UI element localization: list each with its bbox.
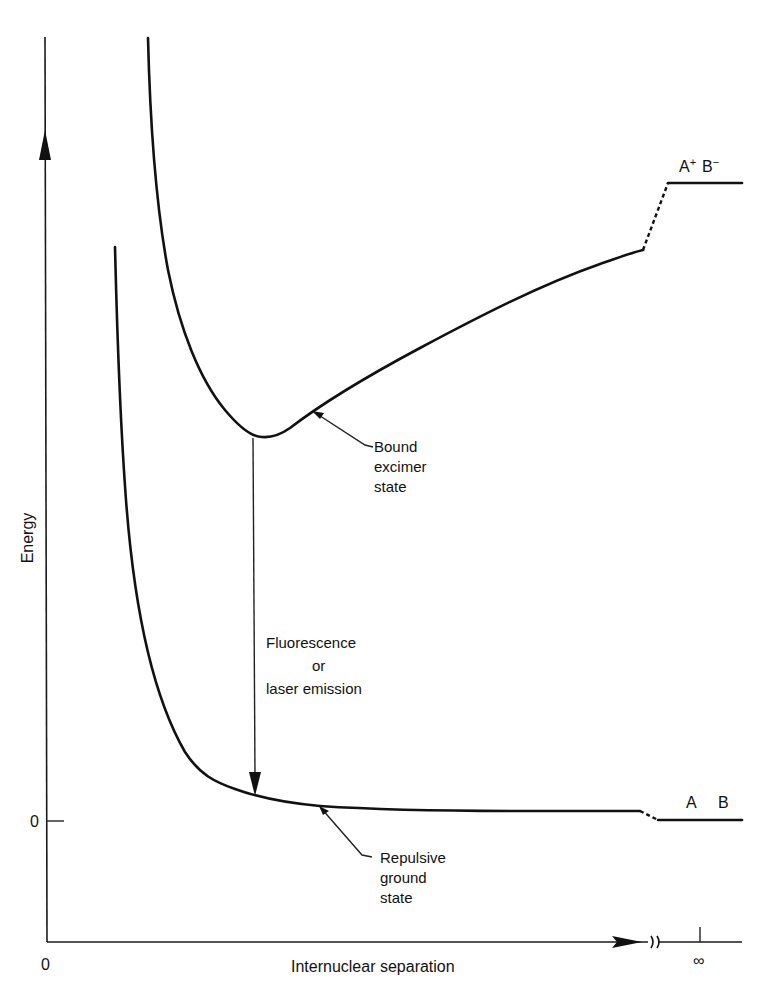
x-axis: 0 ∞ Internuclear separation	[41, 927, 742, 975]
bound-label-line1: Bound	[374, 438, 417, 455]
neutral-atoms-a-label: A	[686, 794, 697, 811]
x-origin-label: 0	[41, 956, 50, 973]
bound-label-line3: state	[374, 478, 407, 495]
bound-excimer-curve: A+B−	[148, 38, 742, 437]
repulsive-ground-curve: A B	[115, 247, 742, 820]
excimer-energy-diagram: 0 Energy 0 ∞ Internuclear separation A+B…	[0, 0, 767, 983]
transition-label-line3: laser emission	[266, 680, 362, 697]
repulsive-state-annotation: Repulsive ground state	[319, 806, 446, 906]
neutral-atoms-b-label: B	[718, 794, 729, 811]
ion-pair-asymptote-label: A+B−	[679, 156, 719, 175]
repulsive-label-line3: state	[380, 889, 413, 906]
bound-label-line2: excimer	[374, 458, 427, 475]
down-arrow-icon	[249, 772, 261, 796]
x-axis-label: Internuclear separation	[291, 958, 455, 975]
y-axis-arrow-icon	[39, 130, 51, 160]
axis-break-icon	[651, 936, 659, 948]
transition-label-line1: Fluorescence	[266, 634, 356, 651]
transition-label-line2: or	[312, 657, 325, 674]
transition-annotation: Fluorescence or laser emission	[266, 634, 362, 697]
repulsive-label-line1: Repulsive	[380, 849, 446, 866]
bound-state-annotation: Bound excimer state	[312, 411, 427, 495]
y-axis-label: Energy	[19, 513, 36, 564]
y-axis: 0 Energy	[19, 37, 64, 942]
repulsive-label-line2: ground	[380, 869, 427, 886]
infinity-label: ∞	[693, 952, 704, 969]
emission-arrow	[249, 438, 261, 796]
zero-energy-label: 0	[30, 813, 39, 830]
